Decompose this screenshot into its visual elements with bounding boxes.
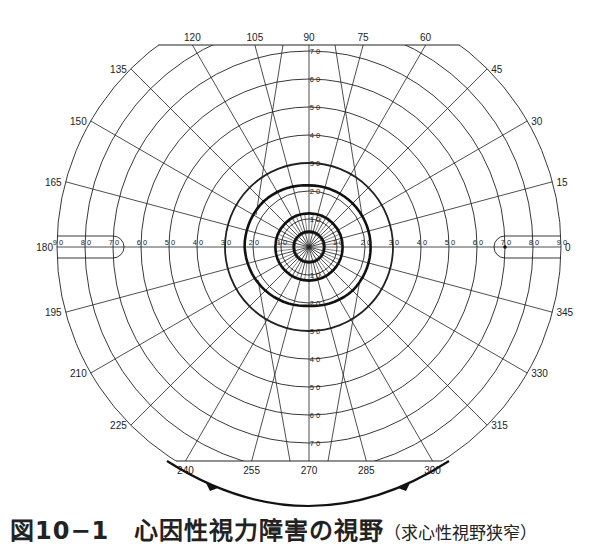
eccentricity-label: 1 0 bbox=[310, 271, 320, 280]
meridian-label: 270 bbox=[301, 465, 318, 476]
meridian-label: 315 bbox=[491, 420, 508, 431]
meridian-label: 150 bbox=[70, 116, 87, 127]
fine-radial bbox=[323, 249, 342, 252]
eccentricity-label: 5 0 bbox=[310, 383, 320, 392]
meridian-255 bbox=[244, 247, 309, 490]
meridian-195 bbox=[66, 247, 309, 312]
figure-caption: 図10−1 心因性視力障害の視野（求心性視野狭窄） bbox=[10, 511, 600, 541]
eccentricity-label: 3 0 bbox=[221, 238, 231, 247]
eccentricity-label: 4 0 bbox=[310, 131, 320, 140]
meridian-345 bbox=[309, 247, 552, 312]
meridian-label: 120 bbox=[184, 32, 201, 43]
meridian-label: 210 bbox=[70, 368, 87, 379]
meridian-label: 180 bbox=[36, 242, 53, 253]
eccentricity-label: 2 0 bbox=[249, 238, 259, 247]
meridian-165 bbox=[66, 182, 309, 247]
meridian-label: 345 bbox=[556, 307, 573, 318]
meridian-label: 255 bbox=[243, 465, 260, 476]
meridian-285 bbox=[309, 247, 374, 490]
eccentricity-label: 2 0 bbox=[361, 238, 371, 247]
eccentricity-label: 2 0 bbox=[310, 299, 320, 308]
meridian-label: 30 bbox=[531, 116, 543, 127]
meridian-label: 330 bbox=[531, 368, 548, 379]
meridian-label: 165 bbox=[45, 177, 62, 188]
eccentricity-label: 7 0 bbox=[501, 238, 511, 247]
meridian-label: 45 bbox=[491, 64, 503, 75]
tangent-line bbox=[335, 45, 362, 215]
fine-radial bbox=[305, 261, 308, 280]
meridian-label: 90 bbox=[303, 32, 315, 43]
eccentricity-label: 8 0 bbox=[529, 238, 539, 247]
fine-radial bbox=[305, 214, 308, 233]
fine-radial bbox=[276, 249, 295, 252]
meridian-15 bbox=[309, 182, 552, 247]
eccentricity-label: 5 0 bbox=[445, 238, 455, 247]
eccentricity-label: 4 0 bbox=[193, 238, 203, 247]
meridian-label: 285 bbox=[358, 465, 375, 476]
eccentricity-label: 4 0 bbox=[417, 238, 427, 247]
meridian-label: 15 bbox=[556, 177, 568, 188]
caption-sub: （求心性視野狭窄） bbox=[384, 523, 537, 543]
meridian-label: 75 bbox=[358, 32, 370, 43]
eccentricity-label: 6 0 bbox=[137, 238, 147, 247]
meridian-135 bbox=[131, 69, 309, 247]
eccentricity-label: 7 0 bbox=[310, 439, 320, 448]
eccentricity-label: 4 0 bbox=[310, 355, 320, 364]
tangent-line bbox=[256, 45, 283, 215]
eccentricity-label: 9 0 bbox=[53, 238, 63, 247]
meridian-315 bbox=[309, 247, 487, 425]
eccentricity-label: 1 0 bbox=[333, 238, 343, 247]
eccentricity-label: 5 0 bbox=[165, 238, 175, 247]
meridian-label: 105 bbox=[247, 32, 264, 43]
eccentricity-label: 6 0 bbox=[310, 75, 320, 84]
meridian-45 bbox=[309, 69, 487, 247]
eccentricity-label: 7 0 bbox=[109, 238, 119, 247]
eccentricity-label: 8 0 bbox=[81, 238, 91, 247]
eccentricity-label: 9 0 bbox=[557, 238, 567, 247]
meridian-label: 195 bbox=[45, 307, 62, 318]
meridian-225 bbox=[131, 247, 309, 425]
eccentricity-label: 3 0 bbox=[310, 159, 320, 168]
caption-main: 図10−1 心因性視力障害の視野 bbox=[10, 517, 384, 545]
eccentricity-label: 3 0 bbox=[310, 327, 320, 336]
eccentricity-label: 6 0 bbox=[310, 411, 320, 420]
meridian-label: 60 bbox=[420, 32, 432, 43]
eccentricity-label: 7 0 bbox=[310, 47, 320, 56]
eccentricity-label: 1 0 bbox=[310, 215, 320, 224]
eccentricity-label: 2 0 bbox=[310, 187, 320, 196]
eccentricity-label: 6 0 bbox=[473, 238, 483, 247]
eccentricity-label: 3 0 bbox=[389, 238, 399, 247]
eccentricity-label: 1 0 bbox=[277, 238, 287, 247]
eccentricity-label: 5 0 bbox=[310, 103, 320, 112]
meridian-label: 225 bbox=[110, 420, 127, 431]
meridian-label: 135 bbox=[110, 64, 127, 75]
